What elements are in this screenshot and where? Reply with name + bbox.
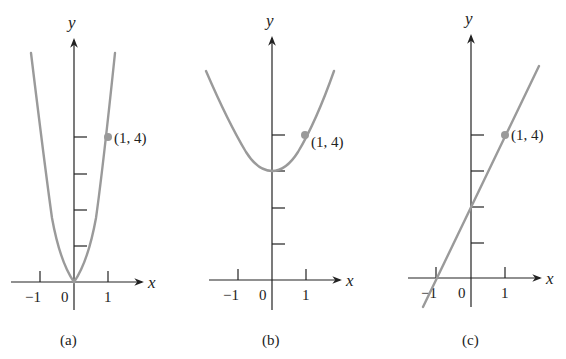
caption-b: (b) xyxy=(262,332,280,349)
graph-a: x y −1 0 1 (1, 4) (a) xyxy=(11,13,156,349)
y-axis-label: y xyxy=(463,9,473,28)
x-tick-label: 0 xyxy=(458,285,466,301)
parabola-curve xyxy=(206,71,334,171)
caption-c: (c) xyxy=(462,332,479,349)
point-label: (1, 4) xyxy=(311,134,344,151)
line-graph xyxy=(423,66,539,307)
caption-a: (a) xyxy=(60,332,77,349)
x-tick-label: 0 xyxy=(61,289,69,305)
x-tick-label: −1 xyxy=(223,287,239,303)
x-axis-label: x xyxy=(147,273,156,292)
y-axis-label: y xyxy=(66,13,76,32)
y-axis-label: y xyxy=(264,11,274,30)
x-tick-label: 1 xyxy=(302,287,310,303)
x-tick-label: −1 xyxy=(25,289,41,305)
point-marker xyxy=(501,131,509,139)
graph-b: x y −1 0 1 (1, 4) (b) xyxy=(206,11,354,349)
figure: x y −1 0 1 (1, 4) (a) x y −1 0 1 xyxy=(0,0,566,359)
point-marker xyxy=(104,133,112,141)
x-tick-label: 1 xyxy=(104,289,112,305)
point-label: (1, 4) xyxy=(511,127,544,144)
parabola-curve xyxy=(31,53,115,282)
graph-c: x y −1 0 1 (1, 4) (c) xyxy=(408,9,554,349)
x-tick-label: 1 xyxy=(501,285,509,301)
x-axis-label: x xyxy=(545,269,554,288)
point-label: (1, 4) xyxy=(114,130,147,147)
point-marker xyxy=(301,131,309,139)
x-tick-label: 0 xyxy=(259,287,267,303)
x-axis-label: x xyxy=(345,271,354,290)
